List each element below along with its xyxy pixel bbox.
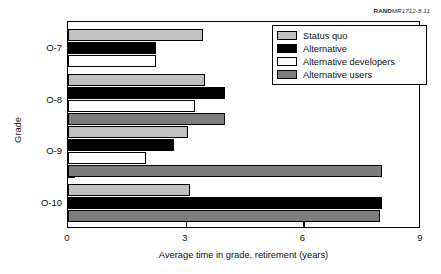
y-axis-tick-label: O-10	[41, 197, 62, 208]
y-axis-tick-mark	[68, 74, 75, 75]
legend-color-swatch	[277, 31, 297, 40]
legend-item: Alternative developers	[277, 55, 421, 68]
bar	[68, 55, 156, 67]
legend-color-swatch	[277, 44, 297, 53]
x-axis-tick-label: 9	[417, 232, 422, 243]
x-axis-tick-label: 0	[64, 232, 69, 243]
bar	[68, 42, 156, 54]
source-credit: RANDMR1712-5.11	[374, 7, 430, 14]
y-axis-tick-labels: O-7O-8O-9O-10	[0, 0, 62, 274]
legend-item-label: Alternative developers	[303, 57, 395, 67]
bar	[68, 165, 382, 177]
y-axis-tick-mark	[68, 177, 75, 178]
bar	[68, 100, 195, 112]
legend-item-label: Alternative users	[303, 70, 372, 80]
bar	[68, 113, 225, 125]
bar	[68, 29, 203, 41]
y-axis-tick-mark	[68, 126, 75, 127]
x-axis-tick-label: 6	[300, 232, 305, 243]
bar	[68, 210, 380, 222]
legend-color-swatch	[277, 57, 297, 66]
bar	[68, 139, 174, 151]
bar	[68, 126, 188, 138]
y-axis-tick-label: O-7	[46, 41, 62, 52]
legend-item-label: Status quo	[303, 31, 347, 41]
legend-item: Status quo	[277, 29, 421, 42]
y-axis-tick-label: O-9	[46, 145, 62, 156]
x-axis-tick-label: 3	[182, 232, 187, 243]
legend-item: Alternative users	[277, 68, 421, 81]
bar	[68, 152, 146, 164]
publisher-label: RAND	[374, 7, 392, 14]
bar	[68, 74, 205, 86]
legend-item-label: Alternative	[303, 44, 347, 54]
legend-item: Alternative	[277, 42, 421, 55]
legend: Status quoAlternativeAlternative develop…	[272, 25, 427, 85]
legend-color-swatch	[277, 70, 297, 79]
document-id-label: MR1712-5.11	[392, 7, 430, 14]
bar	[68, 87, 225, 99]
bar	[68, 197, 382, 209]
y-axis-tick-label: O-8	[46, 93, 62, 104]
x-axis-title: Average time in grade, retirement (years…	[67, 250, 420, 260]
bar	[68, 184, 190, 196]
